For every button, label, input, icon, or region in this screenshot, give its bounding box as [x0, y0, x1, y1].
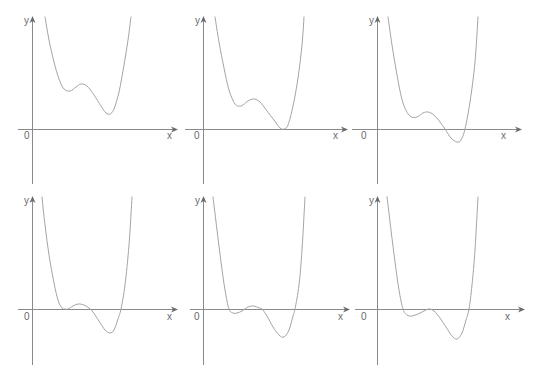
x-axis-label: x: [501, 130, 506, 141]
x-axis-label: x: [338, 311, 343, 322]
function-curve: [388, 17, 478, 142]
origin-label: 0: [194, 311, 200, 322]
y-axis-label: y: [195, 15, 200, 26]
origin-label: 0: [194, 130, 200, 141]
y-axis-label: y: [24, 195, 29, 206]
function-curve: [215, 17, 304, 129]
graph-panel-4: y0x: [18, 195, 178, 365]
origin-label: 0: [24, 130, 30, 141]
function-curve: [45, 17, 131, 114]
graph-panel-5: y0x: [190, 195, 350, 365]
graph-panel-1: y0x: [18, 15, 178, 184]
y-axis-label: y: [195, 195, 200, 206]
graph-panel-6: y0x: [355, 195, 525, 365]
origin-label: 0: [24, 311, 30, 322]
x-axis-label: x: [333, 130, 338, 141]
function-curve: [213, 197, 305, 337]
graph-panel-3: y0x: [352, 15, 522, 184]
x-axis-label: x: [505, 311, 510, 322]
y-axis-label: y: [369, 195, 374, 206]
origin-label: 0: [361, 311, 367, 322]
origin-label: 0: [361, 130, 367, 141]
function-curve: [387, 197, 478, 339]
graph-panel-2: y0x: [185, 15, 348, 184]
x-axis-label: x: [167, 130, 172, 141]
function-graphs-figure: y0xy0xy0xy0xy0xy0x: [0, 0, 542, 385]
function-curve: [42, 197, 132, 333]
y-axis-label: y: [369, 15, 374, 26]
y-axis-label: y: [24, 15, 29, 26]
x-axis-label: x: [167, 311, 172, 322]
